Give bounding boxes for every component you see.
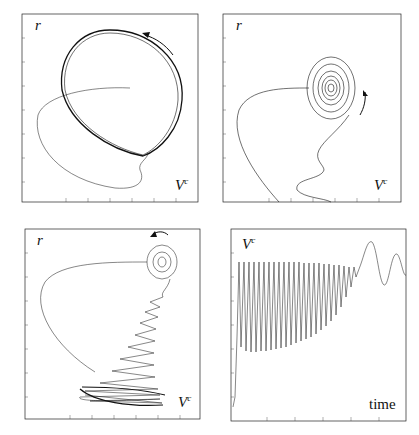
x-axis-label: Vc (374, 176, 387, 193)
arrowhead-icon (150, 231, 157, 237)
vc-time-series (233, 242, 406, 407)
x-axis-label: Vc (178, 393, 191, 410)
phase-portrait-zigzag-spiral: r Vc (0, 217, 210, 435)
time-series-vc: Vc time (209, 217, 419, 435)
y-axis-label: Vc (242, 235, 255, 252)
x-axis-label: time (369, 396, 396, 412)
phase-portrait-stable-focus: r Vc (209, 0, 419, 218)
plot-canvas: r Vc (209, 0, 419, 218)
zigzag-trajectory (41, 245, 177, 405)
x-axis-label: Vc (175, 176, 188, 193)
arrowhead-icon (363, 90, 368, 96)
y-axis-label: r (35, 17, 41, 33)
limit-cycle (37, 30, 182, 188)
plot-canvas: Vc time (209, 217, 419, 435)
plot-canvas: r Vc (0, 217, 210, 435)
y-axis-label: r (236, 17, 242, 33)
phase-portrait-limit-cycle: r Vc (0, 0, 210, 218)
plot-canvas: r Vc (0, 0, 210, 218)
y-axis-label: r (37, 232, 43, 248)
spiral-trajectory (237, 57, 355, 202)
